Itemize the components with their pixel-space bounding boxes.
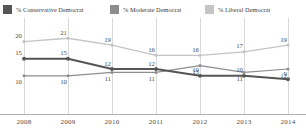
data-label: 15 (60, 49, 67, 56)
plot-area: 1515121210109101011111311122021191616171… (0, 18, 306, 115)
data-point (67, 74, 70, 77)
data-label: 16 (148, 46, 155, 53)
data-label: 17 (236, 42, 243, 49)
x-axis-tick-label: 2012 (193, 118, 208, 126)
data-label: 13 (192, 68, 199, 75)
chart-container: % Conservative Democrat % Moderate Democ… (0, 0, 306, 133)
legend-swatch-icon (110, 5, 119, 14)
data-point (110, 43, 113, 46)
data-point (155, 71, 158, 74)
x-axis-tick-label: 2011 (149, 118, 164, 126)
data-point (242, 50, 245, 53)
data-point (66, 57, 70, 61)
legend-item-conservative-democrat[interactable]: % Conservative Democrat (3, 2, 84, 16)
data-point (66, 37, 69, 40)
data-label: 11 (148, 75, 155, 82)
data-label: 12 (148, 60, 155, 67)
data-point (154, 54, 157, 57)
data-label: 15 (15, 49, 22, 56)
legend-item-liberal-democrat[interactable]: % Liberal Democrat (205, 2, 270, 16)
data-label: 12 (104, 60, 111, 67)
x-axis-tick-label: 2008 (17, 118, 32, 126)
data-point (198, 54, 201, 57)
legend-swatch-icon (205, 5, 214, 14)
x-axis-tick-label: 2013 (237, 118, 252, 126)
x-axis-tick-label: 2009 (61, 118, 76, 126)
data-point (22, 57, 26, 61)
legend-item-label: % Liberal Democrat (218, 5, 270, 14)
data-point (111, 71, 114, 74)
data-point (286, 43, 289, 46)
x-axis-tick-label: 2014 (281, 118, 296, 126)
data-label: 16 (192, 46, 199, 53)
legend-item-moderate-democrat[interactable]: % Moderate Democrat (110, 2, 181, 16)
legend-swatch-icon (3, 5, 12, 14)
data-label: 12 (280, 72, 287, 79)
data-label: 11 (104, 75, 111, 82)
data-label: 21 (60, 29, 67, 36)
data-label: 10 (236, 66, 243, 73)
x-axis-labels: 2008200920102011201220132014 (0, 116, 306, 133)
data-label: 11 (236, 75, 243, 82)
data-label: 20 (15, 32, 22, 39)
data-point (23, 74, 26, 77)
data-point (22, 40, 25, 43)
legend-item-label: % Moderate Democrat (123, 5, 181, 14)
data-label: 10 (15, 78, 22, 85)
chart-svg: 1515121210109101011111311122021191616171… (0, 18, 306, 115)
x-axis-tick-label: 2010 (105, 118, 120, 126)
data-label: 10 (60, 78, 67, 85)
legend-item-label: % Conservative Democrat (16, 5, 84, 14)
data-label: 19 (280, 36, 287, 43)
data-point (154, 67, 158, 71)
chart-legend: % Conservative Democrat % Moderate Democ… (0, 0, 306, 18)
data-point (110, 67, 114, 71)
data-label: 19 (104, 36, 111, 43)
